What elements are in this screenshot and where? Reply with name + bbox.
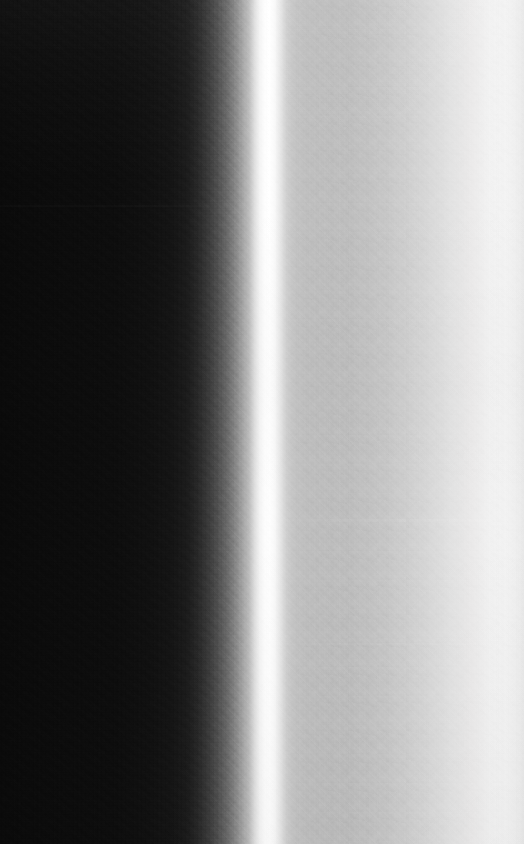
- highlight-mottle-noise: [0, 0, 524, 844]
- horizontal-seam-upper: [0, 205, 524, 207]
- specular-band-core: [0, 0, 524, 844]
- shadow-grain-noise: [0, 0, 524, 844]
- image-canvas: [0, 0, 524, 844]
- fine-grain-noise: [0, 0, 524, 844]
- specular-band-halo: [0, 0, 524, 844]
- vertical-shading-overlay: [0, 0, 524, 844]
- right-edge-vignette: [0, 0, 524, 844]
- base-luminance-gradient: [0, 0, 524, 844]
- blocky-compression-noise: [0, 0, 524, 844]
- horizontal-seam-lower: [0, 643, 524, 645]
- horizontal-seam-mid: [0, 519, 524, 522]
